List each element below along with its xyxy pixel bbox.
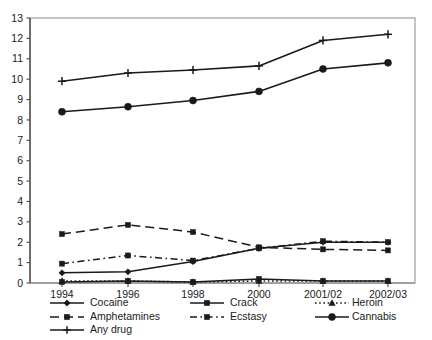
y-tick-label: 13: [11, 12, 23, 24]
x-tick-label: 1998: [181, 288, 205, 300]
y-tick-label: 3: [17, 215, 23, 227]
legend-item-cannabis[interactable]: Cannabis: [315, 310, 396, 322]
x-tick-label: 2001/02: [304, 288, 342, 300]
data-point: [385, 59, 392, 66]
data-point: [320, 65, 327, 72]
legend-label: Cannabis: [352, 310, 396, 322]
data-point: [59, 232, 64, 237]
legend-marker-square-icon: [64, 314, 69, 319]
chart-container: 012345678910111213 19941996199820002001/…: [0, 0, 432, 340]
data-point: [256, 88, 263, 95]
data-point: [190, 229, 195, 234]
y-tick-label: 1: [17, 256, 23, 268]
series-line: [62, 279, 388, 282]
legend-label: Ecstasy: [230, 310, 268, 322]
legend-marker-circle-icon: [329, 314, 336, 321]
legend-label: Any drug: [90, 323, 132, 335]
series-amphetamines: [59, 222, 390, 253]
y-tick-label: 2: [17, 236, 23, 248]
y-tick-label: 0: [17, 277, 23, 289]
data-point: [320, 247, 325, 252]
chart-legend: CocaineAmphetaminesAny drugCrackEcstasyH…: [50, 296, 396, 335]
y-tick-label: 4: [17, 195, 23, 207]
series-line: [62, 225, 388, 250]
series-line: [62, 63, 388, 112]
legend-marker-diamond-icon: [64, 300, 70, 306]
series-line: [62, 241, 388, 263]
legend-label: Amphetamines: [90, 310, 160, 322]
data-point: [59, 270, 65, 276]
legend-item-any-drug[interactable]: Any drug: [50, 323, 132, 335]
y-tick-label: 11: [12, 52, 23, 64]
legend-marker-square-icon: [204, 314, 209, 319]
data-point: [190, 97, 197, 104]
series-any-drug: [58, 30, 392, 85]
y-tick-label: 12: [11, 32, 23, 44]
legend-label: Crack: [230, 296, 258, 308]
data-point: [190, 258, 195, 263]
y-tick-label: 10: [11, 73, 23, 85]
data-point: [125, 253, 130, 258]
data-point: [125, 269, 131, 275]
data-point: [125, 222, 130, 227]
data-point: [256, 246, 261, 251]
data-point: [385, 248, 390, 253]
plot-border: [30, 18, 415, 283]
y-axis-labels: 012345678910111213: [11, 12, 23, 289]
x-tick-label: 1994: [50, 288, 74, 300]
series-line: [62, 34, 388, 81]
legend-marker-square-icon: [204, 300, 209, 305]
plot-frame: [30, 18, 415, 283]
legend-item-amphetamines[interactable]: Amphetamines: [50, 310, 160, 322]
data-series-group: [58, 30, 392, 284]
legend-label: Heroin: [352, 296, 383, 308]
y-tick-label: 8: [17, 114, 23, 126]
y-tick-label: 7: [17, 134, 23, 146]
data-point: [320, 239, 325, 244]
data-point: [59, 261, 64, 266]
legend-item-ecstasy[interactable]: Ecstasy: [190, 310, 268, 322]
y-tick-label: 9: [17, 93, 23, 105]
data-point: [59, 108, 66, 115]
legend-marker-triangle-icon: [329, 300, 335, 306]
y-tick-label: 6: [17, 154, 23, 166]
line-chart: 012345678910111213 19941996199820002001/…: [0, 0, 432, 340]
data-point: [385, 240, 390, 245]
y-tick-label: 5: [17, 175, 23, 187]
data-point: [125, 103, 132, 110]
legend-label: Cocaine: [90, 296, 129, 308]
